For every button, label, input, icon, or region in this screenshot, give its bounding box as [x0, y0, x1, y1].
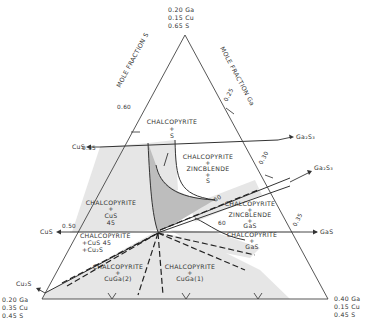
region-chalcopyrite-zincblende-s: CHALCOPYRITE + ZINCBLENDE + S — [183, 153, 234, 184]
vertex-top-ga: 0.20 Ga — [168, 6, 194, 13]
svg-text:+Cu₂S: +Cu₂S — [82, 246, 103, 253]
svg-text:CuGa(1): CuGa(1) — [176, 275, 204, 282]
svg-text:CuGa(2): CuGa(2) — [104, 275, 132, 282]
vertex-bl-s: 0.45 S — [2, 312, 23, 319]
vertex-br-s: 0.45 S — [334, 311, 355, 318]
vertex-top-cu: 0.15 Cu — [168, 14, 194, 21]
tick-label-ga-030: 0.30 — [258, 150, 270, 165]
tick-label-s-050: 0.50 — [62, 223, 76, 229]
label-gas: GaS — [320, 228, 333, 235]
label-cu2s: Cu₂S — [16, 280, 32, 287]
svg-text:CuS: CuS — [104, 212, 117, 219]
vertex-br-ga: 0.40 Ga — [334, 295, 360, 302]
tick-label-s-060: 0.60 — [117, 104, 131, 110]
vertex-top-s: 0.65 S — [168, 22, 189, 29]
svg-text:S: S — [170, 132, 174, 139]
region-chalcopyrite-zincblende-gas: CHALCOPYRITE + ZINCBLENDE + GaS — [225, 200, 276, 229]
label-cus-upper: CuS — [72, 143, 85, 150]
svg-text:GaS: GaS — [245, 243, 258, 250]
svg-text:+: + — [169, 125, 175, 132]
label-cus-lower: CuS — [40, 228, 53, 235]
svg-text:45: 45 — [107, 219, 115, 226]
arrowhead-ga2s3-upper — [289, 135, 294, 140]
arrow-ga2s3-lower — [290, 172, 310, 182]
svg-text:+CuS 45: +CuS 45 — [82, 239, 111, 246]
vertex-br-cu: 0.15 Cu — [334, 303, 360, 310]
label-ga2s3-upper: Ga₂S₃ — [296, 133, 315, 140]
tick-label-ga-025: 0.25 — [223, 87, 235, 102]
svg-text:CHALCOPYRITE: CHALCOPYRITE — [147, 118, 198, 125]
svg-text:+: + — [108, 205, 114, 212]
region-chalcopyrite-s: CHALCOPYRITE + S — [147, 118, 198, 139]
arrowhead-cus-lower — [56, 230, 61, 235]
svg-text:GaS: GaS — [243, 222, 256, 229]
tick-ga-030 — [265, 175, 273, 178]
svg-text:CHALCOPYRITE: CHALCOPYRITE — [80, 232, 131, 239]
label-ga2s3-lower: Ga₂S₃ — [314, 164, 333, 171]
tick-label-ga-035: 0.35 — [292, 212, 304, 227]
svg-text:S: S — [206, 177, 210, 184]
ternary-phase-diagram: 0.20 Ga 0.15 Cu 0.65 S 0.20 Ga 0.35 Cu 0… — [0, 0, 373, 323]
vertex-bl-cu: 0.35 Cu — [2, 304, 28, 311]
arrowhead-gas — [313, 230, 318, 235]
contour-label-60-lower: 60 — [218, 220, 226, 226]
arrowhead-ga2s3-lower — [307, 170, 312, 175]
axis-title-s: MOLE FRACTION S — [115, 31, 150, 88]
vertex-bl-ga: 0.20 Ga — [2, 296, 28, 303]
arrowhead-cu2s — [36, 288, 41, 293]
